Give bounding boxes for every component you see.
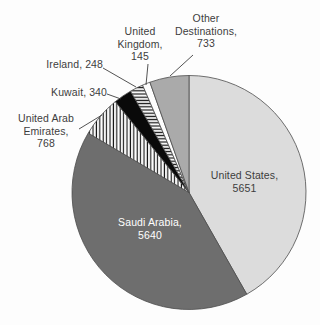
label-ireland: Ireland, 248 (23, 58, 103, 71)
leader-line-united-kingdom (146, 64, 148, 85)
leader-line-kuwait (107, 94, 121, 99)
label-united-arab-emirates: United Arab Emirates, 768 (4, 112, 88, 150)
label-other-destinations: Other Destinations, 733 (168, 12, 244, 50)
pie-chart-figure: United States, 5651 Saudi Arabia, 5640 U… (0, 0, 320, 325)
label-united-kingdom: United Kingdom, 145 (102, 25, 178, 63)
label-saudi-arabia: Saudi Arabia, 5640 (102, 216, 198, 241)
label-united-states: United States, 5651 (196, 169, 293, 194)
leader-line-ireland (103, 68, 136, 87)
label-kuwait: Kuwait, 340 (27, 86, 107, 99)
